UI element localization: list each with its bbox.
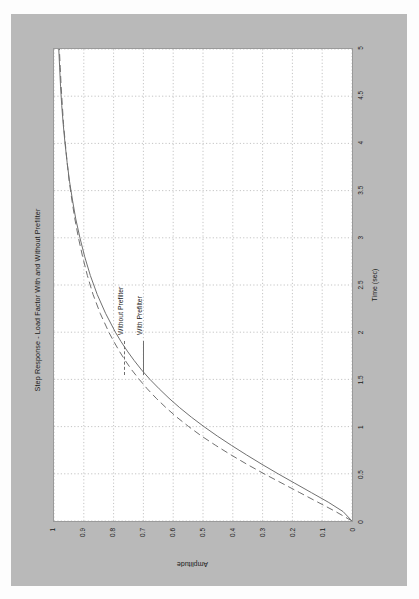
legend-item-without-prefilter: Without Prefilter (116, 263, 134, 375)
paper-sheet: Step Response - Load Factor With and Wit… (11, 14, 407, 586)
legend-label-without-prefilter: Without Prefilter (117, 287, 124, 335)
x-tick-label: 0.5 (357, 470, 364, 479)
data-curves (54, 49, 352, 521)
x-tick-label: 4.5 (357, 91, 364, 100)
plot-axes: Without Prefilter With Prefilter (53, 48, 353, 522)
x-axis-label: Time (sec) (371, 48, 378, 522)
legend-swatch-solid-icon (143, 341, 144, 375)
legend-item-with-prefilter: With Prefilter (135, 263, 153, 375)
x-tick-label: 0 (357, 520, 364, 524)
chart-legend: Without Prefilter With Prefilter (116, 263, 160, 375)
x-tick-label: 5 (357, 46, 364, 50)
legend-label-with-prefilter: With Prefilter (136, 296, 143, 335)
x-tick-label: 3 (357, 236, 364, 240)
y-axis-label: Amplitude (133, 561, 253, 568)
x-tick-label: 2.5 (357, 281, 364, 290)
x-tick-label: 3.5 (357, 186, 364, 195)
page-canvas: Step Response - Load Factor With and Wit… (0, 0, 419, 599)
x-tick-label: 4 (357, 141, 364, 145)
chart-title: Step Response - Load Factor With and Wit… (33, 22, 42, 578)
x-tick-label: 1.5 (357, 375, 364, 384)
rotated-figure: Step Response - Load Factor With and Wit… (19, 22, 399, 578)
x-tick-label: 2 (357, 331, 364, 335)
x-tick-label: 1 (357, 425, 364, 429)
legend-swatch-dashed-icon (124, 341, 125, 375)
